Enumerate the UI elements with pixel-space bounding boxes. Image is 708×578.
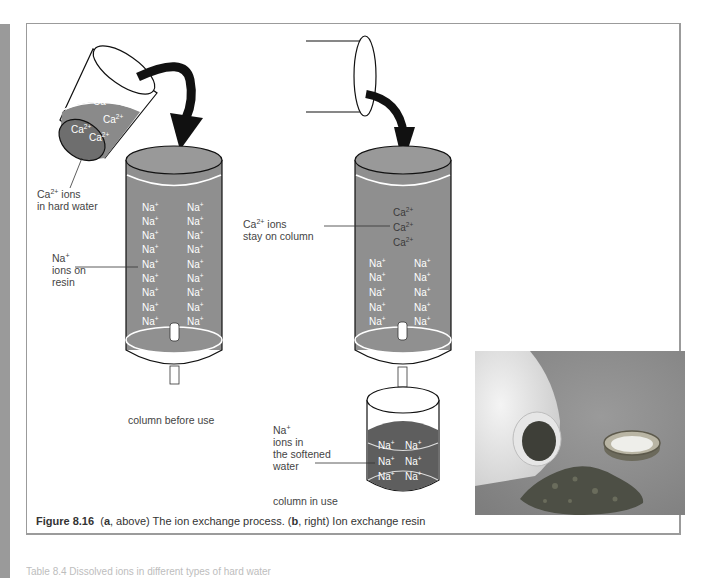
ion-ca: Ca2+ [393, 222, 413, 233]
ion-na: Na+ [187, 273, 204, 284]
caption-column-in-use: column in use [273, 495, 338, 507]
ion-na: Na+ [142, 216, 159, 227]
ion-na: Na+ [142, 302, 159, 313]
ion-exchange-resin-photo [475, 351, 685, 515]
ion-na: Na+ [369, 258, 386, 269]
ion-na: Na+ [369, 287, 386, 298]
ion-na: Na+ [405, 471, 422, 482]
cut-off-text-line: Table 8.4 Dissolved ions in different ty… [26, 566, 271, 578]
ion-na: Na+ [187, 259, 204, 270]
resin-column-before-icon [126, 146, 222, 384]
ion-na: Na+ [414, 316, 431, 327]
ion-na: Na+ [414, 272, 431, 283]
ion-na: Na+ [187, 202, 204, 213]
beaker-ion-ca: Ca2+ [93, 96, 113, 107]
empty-beaker-icon [306, 36, 376, 116]
caption-column-before-use: column before use [128, 414, 214, 426]
ion-na: Na+ [405, 456, 422, 467]
beaker-ion-ca: Ca2+ [103, 114, 123, 125]
ion-na: Na+ [187, 302, 204, 313]
ion-na: Na+ [142, 287, 159, 298]
ion-na: Na+ [142, 230, 159, 241]
figure-number: Figure 8.16 [36, 515, 94, 527]
ion-na: Na+ [369, 302, 386, 313]
ion-na: Na+ [142, 273, 159, 284]
ion-na: Na+ [378, 456, 395, 467]
ion-na: Na+ [142, 244, 159, 255]
ion-ca: Ca2+ [393, 207, 413, 218]
beaker-ion-ca: Ca2+ [89, 132, 109, 143]
ion-na: Na+ [369, 272, 386, 283]
label-hard-water: Ca2+ ions in hard water [37, 188, 98, 212]
ion-na: Na+ [414, 287, 431, 298]
figure-caption: Figure 8.16 (a, above) The ion exchange … [36, 515, 425, 527]
ion-na: Na+ [142, 316, 159, 327]
ion-na: Na+ [187, 230, 204, 241]
ion-na: Na+ [414, 302, 431, 313]
ion-na: Na+ [414, 258, 431, 269]
label-na-ions-on-resin: Na+ ions on resin [52, 252, 86, 288]
ion-na: Na+ [187, 287, 204, 298]
ion-na: Na+ [405, 440, 422, 451]
ion-na: Na+ [187, 244, 204, 255]
label-na-softened-water: Na+ ions in the softened water [273, 424, 331, 472]
ion-na: Na+ [378, 440, 395, 451]
label-ca-stay-on-column: Ca2+ ions stay on column [243, 218, 314, 242]
ion-ca: Ca2+ [393, 237, 413, 248]
ion-na: Na+ [142, 259, 159, 270]
ion-na: Na+ [369, 316, 386, 327]
ion-na: Na+ [187, 216, 204, 227]
ion-na: Na+ [378, 471, 395, 482]
ion-na: Na+ [142, 202, 159, 213]
ion-na: Na+ [187, 316, 204, 327]
